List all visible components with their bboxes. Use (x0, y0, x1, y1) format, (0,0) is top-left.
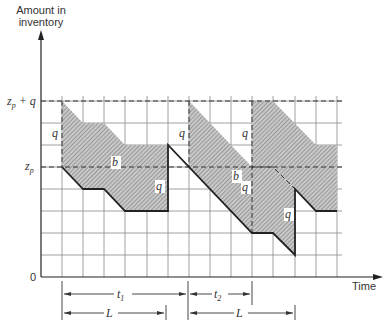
origin-label: 0 (30, 271, 36, 283)
zp-label: zp (24, 159, 34, 175)
L2-label: L (235, 306, 243, 320)
q-label-cycle-3: q (285, 207, 291, 221)
y-axis-arrow-icon (38, 30, 44, 40)
q-label-cycle-1: q (52, 126, 58, 140)
q-label-cycle-3-upper: q (242, 126, 248, 140)
b-label-cycle-1: b (112, 155, 118, 169)
y-axis-label-line2: inventory (19, 16, 64, 28)
y-axis-label-line1: Amount in (16, 4, 66, 16)
q-label-cycle-1-lower: q (156, 179, 162, 193)
inventory-diagram: Amount in inventory Time 0 zp + q zp q b… (0, 0, 390, 325)
L1-label: L (105, 306, 113, 320)
zp-plus-q-label: zp + q (6, 94, 36, 110)
dimensions: t1 t2 L L (62, 281, 295, 320)
q-label-cycle-2: q (179, 126, 185, 140)
b-label-cycle-2: b (233, 169, 239, 183)
q-label-cycle-2-lower: q (242, 180, 248, 194)
x-axis-label: Time (352, 280, 376, 292)
